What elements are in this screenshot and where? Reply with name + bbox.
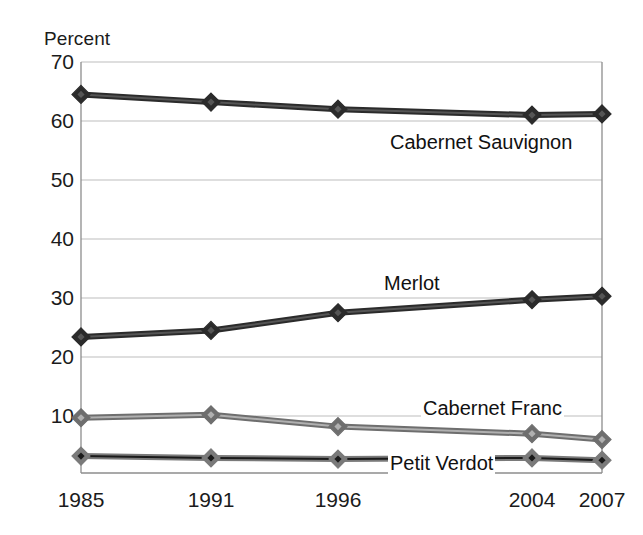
plot-area bbox=[0, 0, 643, 535]
series-annotation-cabernet-franc: Cabernet Franc bbox=[421, 397, 564, 420]
series-petit-verdot bbox=[72, 447, 611, 469]
x-tick-label-1985: 1985 bbox=[58, 488, 105, 512]
series-annotation-merlot: Merlot bbox=[382, 272, 442, 295]
series-cabernet-sauvignon bbox=[72, 85, 611, 124]
series-annotation-cabernet-sauvignon: Cabernet Sauvignon bbox=[388, 131, 574, 154]
x-tick-label-2004: 2004 bbox=[509, 488, 556, 512]
x-tick-label-1996: 1996 bbox=[315, 488, 362, 512]
series-annotation-petit-verdot: Petit Verdot bbox=[388, 452, 495, 475]
series-merlot bbox=[72, 287, 611, 346]
x-tick-label-2007: 2007 bbox=[579, 488, 626, 512]
x-tick-label-1991: 1991 bbox=[188, 488, 235, 512]
line-chart: Percent 70 60 50 40 30 20 10 1985 1991 1… bbox=[0, 0, 643, 535]
